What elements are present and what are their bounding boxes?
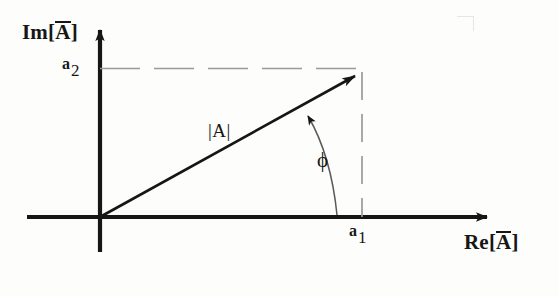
imaginary-axis-label: Im[A] xyxy=(22,22,78,43)
a1-base: a xyxy=(349,222,357,239)
scan-artifact xyxy=(457,16,474,31)
magnitude-label: |A| xyxy=(208,121,231,140)
a2-subscript: 2 xyxy=(71,61,80,80)
real-component-label: a1 xyxy=(349,222,366,239)
a1-subscript: 1 xyxy=(358,228,367,247)
phi-angle-label: ϕ xyxy=(317,150,328,171)
re-prefix: Re[ xyxy=(464,230,496,254)
im-symbol-overline: A xyxy=(55,22,70,43)
im-suffix: ] xyxy=(71,20,78,44)
imaginary-component-label: a2 xyxy=(62,55,79,72)
a2-base: a xyxy=(62,55,70,72)
phasor-diagram-figure: Im[A] Re[A] a2 a1 |A| ϕ xyxy=(0,0,558,296)
re-symbol-overline: A xyxy=(496,232,511,253)
real-axis-label: Re[A] xyxy=(464,232,519,253)
im-prefix: Im[ xyxy=(22,20,55,44)
re-suffix: ] xyxy=(511,230,518,254)
phasor-vector xyxy=(100,76,355,217)
